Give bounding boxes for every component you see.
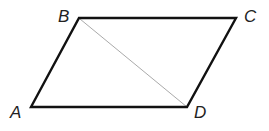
vertex-label-b: B [58, 7, 69, 26]
vertex-label-a: A [9, 103, 21, 122]
diagonal-bd [80, 19, 187, 107]
parallelogram-diagram: A B C D [0, 0, 269, 131]
diagram-svg: A B C D [0, 0, 269, 131]
vertex-label-d: D [194, 103, 206, 122]
vertex-label-c: C [244, 7, 257, 26]
